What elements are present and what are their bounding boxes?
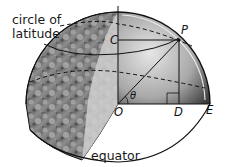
point-E-label: E [206, 104, 213, 116]
point-P-label: P [181, 24, 188, 36]
label-line-2: latitude [12, 27, 61, 41]
theta-label: θ [130, 90, 136, 102]
point-P-dot [177, 38, 180, 41]
equator-label: equator [91, 149, 140, 163]
label-line-1: circle of [12, 13, 61, 27]
point-O-label: O [114, 106, 123, 118]
point-D-label: D [174, 106, 183, 118]
circle-of-latitude-label: circle of latitude [12, 13, 61, 41]
point-C-label: C [110, 34, 118, 46]
